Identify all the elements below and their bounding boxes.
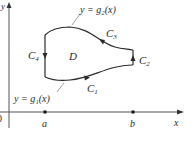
- axes: y x 0: [0, 1, 184, 128]
- x-axis-label: x: [173, 117, 179, 128]
- point-b-marker: [132, 111, 135, 114]
- leader-g1: [57, 83, 64, 92]
- arrow-c4-down-icon: [43, 53, 48, 59]
- boundary-c4-label: C4: [28, 49, 39, 63]
- boundary-c1-label: C1: [87, 82, 98, 96]
- boundary-c3-label: C3: [106, 27, 117, 41]
- point-b-label: b: [130, 118, 135, 129]
- region-label: D: [68, 50, 77, 62]
- upper-curve-label: y = g₂(x): [79, 4, 116, 16]
- greens-theorem-region-diagram: y x 0 a b D y = g₂(x) y = g₁(x) C4 C3 C2…: [0, 0, 196, 143]
- direction-arrows: [43, 39, 136, 81]
- boundary-c2-label: C2: [139, 54, 150, 68]
- point-a-label: a: [42, 118, 47, 129]
- leader-g2: [72, 14, 80, 25]
- origin-label: 0: [0, 113, 2, 124]
- arrow-c2-up-icon: [131, 55, 136, 61]
- lower-curve-label: y = g₁(x): [13, 93, 50, 105]
- x-axis-arrow-icon: [177, 110, 184, 115]
- labels: D y = g₂(x) y = g₁(x) C4 C3 C2 C1: [13, 4, 150, 105]
- y-axis-label: y: [0, 1, 5, 11]
- curve-c3-upper: [45, 27, 133, 50]
- region-boundary: [45, 27, 133, 80]
- y-axis-arrow-icon: [7, 2, 12, 8]
- axis-points: a b: [42, 111, 135, 130]
- arrow-c3-left-icon: [99, 39, 105, 45]
- point-a-marker: [44, 111, 47, 114]
